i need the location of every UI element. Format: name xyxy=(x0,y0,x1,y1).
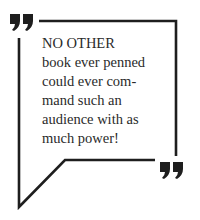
quote-line: mand such an xyxy=(42,91,177,110)
quote-text: NO OTHER book ever penned could ever com… xyxy=(42,34,177,148)
quote-line: book ever penned xyxy=(42,53,177,72)
quote-line: could ever com- xyxy=(42,72,177,91)
quote-line: audience with as xyxy=(42,110,177,129)
open-quote-icon xyxy=(10,14,33,31)
quote-line: much power! xyxy=(42,129,177,148)
quote-line: NO OTHER xyxy=(42,34,177,53)
close-quote-icon xyxy=(160,162,183,179)
